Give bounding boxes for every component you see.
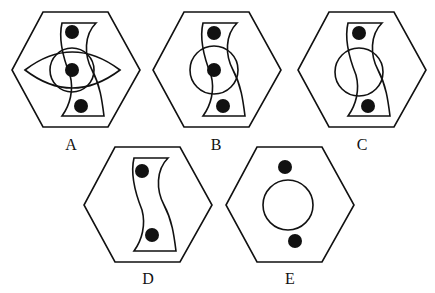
option-b-label: B — [211, 136, 222, 154]
dot-top — [65, 25, 79, 39]
dot-middle — [65, 63, 79, 77]
hexagon-shape — [84, 147, 212, 262]
circle-shape — [335, 48, 383, 96]
option-c-figure[interactable] — [298, 12, 426, 127]
dot-top — [207, 26, 221, 40]
circle-shape — [263, 180, 313, 230]
option-b-figure[interactable] — [153, 12, 281, 127]
dot-bottom — [288, 234, 302, 248]
dot-bottom — [216, 99, 230, 113]
dot-bottom — [145, 228, 159, 242]
option-e-figure[interactable] — [226, 147, 354, 262]
dot-bottom — [361, 99, 375, 113]
dot-top — [135, 164, 149, 178]
dot-top — [352, 26, 366, 40]
option-d-figure[interactable] — [84, 147, 212, 262]
dot-middle — [207, 63, 221, 77]
option-e-label: E — [285, 270, 295, 288]
option-c-label: C — [357, 136, 368, 154]
option-d-label: D — [142, 270, 154, 288]
option-a-label: A — [65, 136, 77, 154]
dot-bottom — [74, 99, 88, 113]
dot-top — [278, 160, 292, 174]
option-a-figure[interactable] — [12, 12, 140, 127]
